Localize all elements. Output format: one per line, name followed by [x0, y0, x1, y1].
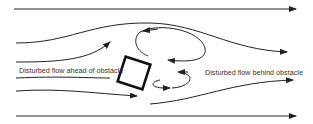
streamline-upper: [16, 23, 287, 52]
label-behind: Disturbed flow behind obstacle: [205, 68, 303, 77]
streamline-ahead-mid: [16, 77, 110, 78]
label-ahead: Disturbed flow ahead of obstacle: [19, 66, 123, 75]
vortex-lower: [153, 80, 170, 88]
streamline-lower-right: [150, 80, 293, 104]
streamline-ahead-upper: [16, 42, 110, 62]
flow-diagram: [0, 0, 313, 124]
streamline-lower: [16, 90, 137, 96]
vortex-upper: [140, 28, 205, 61]
